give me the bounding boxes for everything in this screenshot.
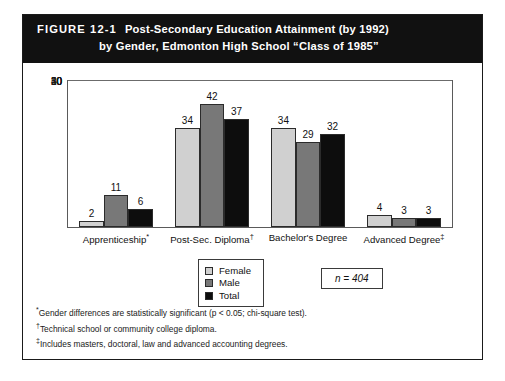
- bar-slot: 2: [79, 81, 104, 227]
- legend-label: Male: [219, 277, 240, 289]
- footnote-marker: ‡: [36, 337, 40, 344]
- bar-value-label: 37: [231, 106, 242, 117]
- x-axis-category-label: Advanced Degree‡: [364, 232, 445, 245]
- bar-value-label: 34: [278, 115, 289, 126]
- bar-cluster: 433: [367, 81, 441, 227]
- x-axis-category-label: Apprenticeship*: [83, 232, 149, 245]
- bar-slot: 34: [271, 81, 296, 227]
- figure-title-text-1: Post-Secondary Education Attainment (by …: [125, 23, 389, 35]
- legend-item-total[interactable]: Total: [205, 290, 251, 302]
- title-line-one: FIGURE 12-1Post-Secondary Education Atta…: [37, 21, 472, 38]
- legend-row: FemaleMaleTotal n = 404: [67, 259, 453, 305]
- footnote-list: *Gender differences are statistically si…: [36, 304, 456, 350]
- bar-group: 2116Apprenticeship*: [68, 81, 164, 227]
- bar-value-label: 29: [302, 129, 313, 140]
- footnote: ‡Includes masters, doctoral, law and adv…: [36, 335, 456, 350]
- chart-plot-area: 01020304050 2116Apprenticeship*344237Pos…: [67, 80, 453, 228]
- bar-male[interactable]: [200, 104, 225, 227]
- x-axis-category-label: Post-Sec. Diploma†: [170, 232, 254, 245]
- bar-cluster: 2116: [79, 81, 153, 227]
- bar-slot: 11: [104, 81, 129, 227]
- legend-swatch-icon: [205, 267, 213, 275]
- x-axis-category-label: Bachelor's Degree: [269, 232, 348, 243]
- legend-label: Female: [219, 265, 251, 277]
- bar-slot: 37: [224, 81, 249, 227]
- bar-value-label: 32: [327, 121, 338, 132]
- bar-value-label: 4: [377, 202, 383, 213]
- footnote: *Gender differences are statistically si…: [36, 304, 456, 319]
- bar-female[interactable]: [175, 128, 200, 227]
- sample-size-badge: n = 404: [321, 268, 383, 289]
- y-axis-tick-label: 50: [51, 76, 62, 87]
- footnote-marker: *: [146, 232, 149, 241]
- bar-groups: 2116Apprenticeship*344237Post-Sec. Diplo…: [68, 81, 452, 227]
- bar-total[interactable]: [320, 134, 345, 227]
- figure-title-banner: FIGURE 12-1Post-Secondary Education Atta…: [23, 15, 482, 63]
- figure-number-label: FIGURE 12-1: [37, 23, 117, 35]
- bar-male[interactable]: [392, 218, 417, 227]
- legend-swatch-icon: [205, 279, 213, 287]
- bar-male[interactable]: [296, 142, 321, 227]
- bar-value-label: 6: [138, 196, 144, 207]
- footnote-marker: *: [36, 306, 39, 313]
- bar-total[interactable]: [128, 209, 153, 227]
- bar-total[interactable]: [416, 218, 441, 227]
- bar-value-label: 3: [401, 205, 407, 216]
- bar-slot: 42: [200, 81, 225, 227]
- bar-value-label: 34: [182, 115, 193, 126]
- figure-title-text-2: by Gender, Edmonton High School “Class o…: [99, 40, 379, 52]
- bar-female[interactable]: [271, 128, 296, 227]
- bar-slot: 4: [367, 81, 392, 227]
- footnote: †Technical school or community college d…: [36, 320, 456, 335]
- bar-female[interactable]: [367, 215, 392, 227]
- bar-slot: 32: [320, 81, 345, 227]
- bar-male[interactable]: [104, 195, 129, 227]
- bar-slot: 3: [416, 81, 441, 227]
- bar-value-label: 3: [426, 205, 432, 216]
- bar-female[interactable]: [79, 221, 104, 227]
- figure-frame: FIGURE 12-1Post-Secondary Education Atta…: [22, 14, 483, 360]
- legend-item-male[interactable]: Male: [205, 277, 251, 289]
- bar-total[interactable]: [224, 119, 249, 227]
- bar-slot: 29: [296, 81, 321, 227]
- bar-value-label: 2: [89, 208, 95, 219]
- bar-slot: 34: [175, 81, 200, 227]
- bar-slot: 6: [128, 81, 153, 227]
- bar-value-label: 42: [206, 91, 217, 102]
- footnote-marker: ‡: [440, 232, 444, 241]
- bar-group: 344237Post-Sec. Diploma†: [164, 81, 260, 227]
- chart-legend: FemaleMaleTotal: [198, 259, 264, 307]
- bar-value-label: 11: [111, 182, 121, 193]
- bar-slot: 3: [392, 81, 417, 227]
- bar-group: 342932Bachelor's Degree: [260, 81, 356, 227]
- title-line-two: by Gender, Edmonton High School “Class o…: [37, 38, 472, 55]
- legend-swatch-icon: [205, 292, 213, 300]
- legend-label: Total: [219, 290, 239, 302]
- footnote-marker: †: [36, 322, 40, 329]
- legend-item-female[interactable]: Female: [205, 265, 251, 277]
- bar-group: 433Advanced Degree‡: [356, 81, 452, 227]
- footnote-marker: †: [250, 232, 254, 241]
- bar-cluster: 344237: [175, 81, 249, 227]
- bar-cluster: 342932: [271, 81, 345, 227]
